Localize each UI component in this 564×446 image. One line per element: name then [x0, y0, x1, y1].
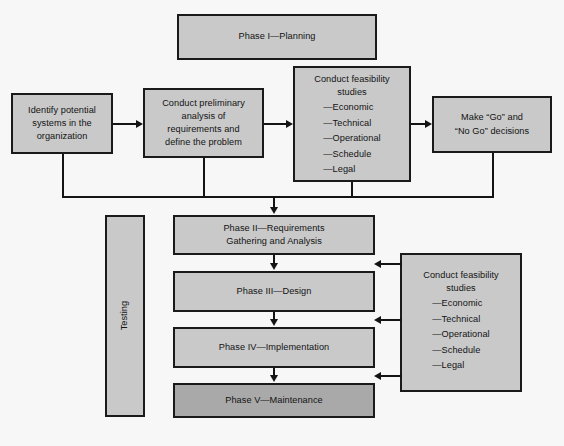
feasibility-right-item-operational: —Operational	[432, 327, 489, 342]
phase-5-label: Phase V—Maintenance	[225, 394, 322, 407]
conduct-preliminary-analysis-box: Conduct preliminary analysis of requirem…	[143, 88, 264, 158]
arrowhead-feasibility-right-to-phase-3	[374, 260, 381, 268]
drop-leg-identify	[62, 154, 64, 198]
phase-3-label: Phase III—Design	[237, 285, 312, 298]
phase-4-box: Phase IV—Implementation	[173, 327, 375, 368]
feasibility-right-item-economic: —Economic	[432, 296, 489, 311]
arrowhead-identify-to-prelim	[136, 120, 143, 128]
feasibility-right-item-technical: —Technical	[432, 312, 489, 327]
feasibility-top-item-schedule: —Schedule	[323, 147, 380, 162]
feasibility-right-heading-line-2: studies	[402, 282, 520, 295]
prelim-line-2: analysis of	[182, 110, 226, 123]
prelim-line-4: define the problem	[165, 136, 242, 149]
arrowhead-feasibility-to-gonogo	[425, 120, 432, 128]
feasibility-right-item-schedule: —Schedule	[432, 343, 489, 358]
feasibility-right-heading-line-1: Conduct feasibility	[402, 269, 520, 282]
connector-feasibility-right-to-phase-5	[381, 375, 402, 377]
make-go-no-go-decisions-box: Make “Go” and “No Go” decisions	[432, 96, 552, 153]
identify-potential-systems-box: Identify potential systems in the organi…	[11, 93, 113, 154]
feasibility-right-item-legal: —Legal	[432, 358, 489, 373]
feasibility-top-heading-line-1: Conduct feasibility	[295, 73, 409, 86]
arrowhead-feasibility-right-to-phase-5	[374, 372, 381, 380]
identify-line-2: systems in the	[32, 117, 91, 130]
conduct-feasibility-studies-right-box: Conduct feasibility studies —Economic —T…	[400, 253, 522, 392]
phase-2-box: Phase II—Requirements Gathering and Anal…	[173, 215, 375, 255]
drop-leg-prelim	[203, 158, 205, 198]
phase-3-box: Phase III—Design	[173, 271, 375, 312]
connector-feasibility-right-to-phase-3	[381, 263, 402, 265]
phase-5-box: Phase V—Maintenance	[173, 383, 375, 418]
go-nogo-line-1: Make “Go” and	[461, 111, 523, 124]
drop-leg-gonogo	[492, 153, 494, 198]
feasibility-top-heading: Conduct feasibility studies	[295, 73, 409, 99]
go-nogo-line-2: “No Go” decisions	[455, 125, 529, 138]
feasibility-top-items: —Economic —Technical —Operational —Sched…	[323, 100, 380, 177]
arrowhead-phase-2-to-3	[270, 263, 278, 270]
phase-2-line-1: Phase II—Requirements	[223, 222, 324, 235]
feasibility-top-item-legal: —Legal	[323, 162, 380, 177]
connector-feasibility-to-gonogo	[411, 123, 426, 125]
arrowhead-bus-to-phase-2	[270, 207, 278, 214]
sdlc-flowchart: Phase I—Planning Identify potential syst…	[0, 0, 564, 446]
feasibility-right-heading: Conduct feasibility studies	[402, 269, 520, 295]
conduct-feasibility-studies-top-box: Conduct feasibility studies —Economic —T…	[293, 66, 411, 182]
phase-1-planning-label: Phase I—Planning	[239, 30, 316, 43]
connector-feasibility-right-to-phase-4	[381, 319, 402, 321]
arrowhead-feasibility-right-to-phase-4	[374, 316, 381, 324]
phase-4-label: Phase IV—Implementation	[219, 341, 329, 354]
identify-line-1: Identify potential	[28, 104, 96, 117]
phase-1-planning-box: Phase I—Planning	[177, 14, 377, 60]
feasibility-top-item-economic: —Economic	[323, 100, 380, 115]
arrowhead-prelim-to-feasibility	[286, 120, 293, 128]
connector-prelim-to-feasibility	[264, 123, 287, 125]
feasibility-top-heading-line-2: studies	[295, 86, 409, 99]
testing-box: Testing	[105, 215, 145, 417]
prelim-line-1: Conduct preliminary	[162, 97, 245, 110]
feasibility-right-items: —Economic —Technical —Operational —Sched…	[432, 296, 489, 373]
arrowhead-phase-3-to-4	[270, 319, 278, 326]
collector-bus-line	[62, 196, 494, 198]
arrowhead-phase-4-to-5	[270, 375, 278, 382]
testing-label: Testing	[118, 301, 131, 330]
prelim-line-3: requirements and	[167, 123, 239, 136]
feasibility-top-item-technical: —Technical	[323, 116, 380, 131]
identify-line-3: organization	[37, 130, 88, 143]
phase-2-line-2: Gathering and Analysis	[226, 235, 322, 248]
connector-identify-to-prelim	[113, 123, 137, 125]
feasibility-top-item-operational: —Operational	[323, 131, 380, 146]
